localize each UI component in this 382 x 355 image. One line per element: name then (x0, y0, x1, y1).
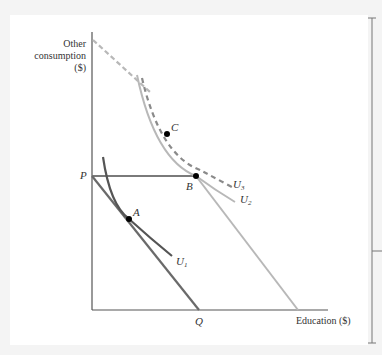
label-u3: U3 (233, 179, 244, 192)
label-q: Q (195, 316, 203, 327)
label-u2: U2 (240, 194, 251, 207)
x-axis-label: Education ($) (296, 316, 351, 326)
u2-letter: U (240, 193, 248, 205)
label-p: P (80, 170, 87, 181)
y-axis-label: Other consumption ($) (22, 38, 86, 74)
label-a: A (133, 207, 140, 218)
u3-sub: 3 (241, 184, 245, 192)
u2-sub: 2 (248, 199, 252, 207)
y-axis-label-line-2: consumption (22, 50, 86, 62)
point-a (126, 216, 132, 222)
y-axis-label-line-3: ($) (22, 62, 86, 74)
point-c (164, 131, 170, 137)
label-b: B (186, 181, 193, 192)
y-axis-label-line-1: Other (22, 38, 86, 50)
budget-line-original (92, 176, 199, 310)
u1-sub: 1 (184, 261, 188, 269)
u3-letter: U (233, 178, 241, 190)
point-b (193, 173, 199, 179)
u1-letter: U (176, 255, 184, 267)
label-u1: U1 (176, 256, 187, 269)
label-c: C (171, 122, 178, 133)
budget-line-dashed (93, 40, 150, 92)
